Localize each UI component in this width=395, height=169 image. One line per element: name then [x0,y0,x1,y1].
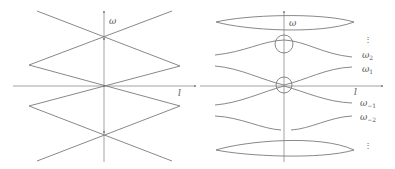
crossing-point [103,38,105,40]
label-omega-minus-2: ω−2 [360,112,376,123]
dispersion-diagram: ω l ω l ω2 ω1 ω−1 ω−2 ⋮ ⋮ [0,0,395,169]
band-omega-1 [215,66,352,85]
band-omega-minus-1 [215,86,352,105]
label-omega-2: ω2 [362,50,373,61]
right-panel: ω l ω2 ω1 ω−1 ω−2 ⋮ ⋮ [200,12,382,162]
band-bottom-upper [216,140,354,150]
left-line [37,106,180,161]
ellipsis-top: ⋮ [364,35,372,44]
left-l-label: l [178,88,181,98]
right-omega-label: ω [289,18,297,28]
band-top-lower [216,22,354,30]
band-omega-2 [215,40,352,57]
crossing-point [103,85,105,87]
band-omega-minus-2-left [215,116,281,130]
label-omega-1: ω1 [362,64,373,75]
left-line [29,106,172,161]
crossing-point [103,131,105,133]
band-bottom-lower [216,150,354,156]
label-omega-minus-1: ω−1 [360,98,376,109]
left-line [29,11,172,65]
left-panel: ω l [13,11,195,162]
ellipsis-bottom: ⋮ [364,141,372,150]
left-omega-label: ω [109,16,117,26]
right-l-label: l [354,87,357,97]
band-top-upper [216,16,354,22]
band-omega-minus-2-right [291,116,352,130]
